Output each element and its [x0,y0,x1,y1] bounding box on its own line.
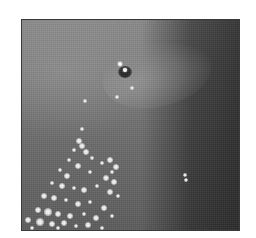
bright-speckle [115,95,119,99]
bright-speckle [184,178,188,182]
bright-speckle [74,224,78,228]
bright-speckle [61,220,67,226]
bright-speckle [55,211,61,217]
bright-speckle [50,181,54,185]
bright-speckle [79,143,85,149]
bright-speckle [95,184,99,188]
bright-speckle [100,161,104,165]
bright-speckle [82,212,86,216]
bright-speckle [67,158,71,162]
specular-glint [118,62,122,66]
bright-speckle [59,183,65,189]
bright-speckle [64,173,70,179]
bright-speckle [110,170,114,174]
bright-speckle [83,99,87,103]
bright-speckle [93,215,99,221]
bright-speckle [100,226,104,230]
bright-speckle [183,173,187,177]
bright-speckle [116,194,120,198]
bright-speckle [44,208,52,216]
bright-speckle [88,170,92,174]
bright-speckle [81,187,87,193]
bright-speckle [85,222,91,228]
bright-speckle [130,86,134,90]
bright-speckle [35,207,41,213]
bright-speckle [107,157,113,163]
bright-speckle [111,179,117,185]
bright-speckle [88,200,92,204]
bright-speckle [107,189,113,195]
bright-speckle [30,226,34,230]
bright-speckle [83,149,89,155]
bright-speckle [113,164,119,170]
bright-speckle [51,195,57,201]
bright-speckle [110,214,114,218]
bright-speckle [56,226,60,230]
bright-speckle [64,198,68,202]
bright-speckle [25,217,31,223]
photograph [21,19,240,231]
bright-speckle [103,175,109,181]
bright-speckle [49,221,55,227]
bright-speckle [58,168,62,172]
bright-speckle [67,213,73,219]
bright-speckle [41,193,47,199]
bright-speckle [80,127,84,131]
bright-speckle [90,156,94,160]
bright-speckle [72,148,76,152]
bright-speckle [75,163,81,169]
bright-speckle [72,186,76,190]
specular-glint [123,68,127,72]
bright-speckle [75,201,81,207]
bright-speckle [101,205,107,211]
bright-speckle [36,218,44,226]
